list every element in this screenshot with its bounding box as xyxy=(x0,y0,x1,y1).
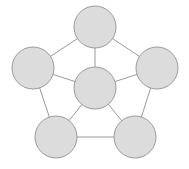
graph-edge-center-to-left xyxy=(52,74,76,82)
graph-edge-center-to-bottom-right xyxy=(108,103,123,121)
graph-diagram-canvas xyxy=(0,0,189,169)
graph-edge-top-to-left xyxy=(50,38,79,57)
node-center[interactable] xyxy=(74,67,116,109)
graph-edge-left-to-bottom-left xyxy=(39,87,49,118)
graph-edge-center-to-right xyxy=(114,74,138,82)
graph-diagram xyxy=(0,0,189,169)
graph-edge-top-to-right xyxy=(112,38,141,57)
node-top[interactable] xyxy=(74,6,116,48)
node-left[interactable] xyxy=(12,47,54,89)
graph-edge-center-to-bottom-left xyxy=(68,104,82,122)
node-bottom-left[interactable] xyxy=(35,116,77,158)
graph-nodes-layer xyxy=(12,6,178,158)
graph-edge-right-to-bottom-right xyxy=(141,87,151,118)
node-right[interactable] xyxy=(136,47,178,89)
node-bottom-right[interactable] xyxy=(114,116,156,158)
